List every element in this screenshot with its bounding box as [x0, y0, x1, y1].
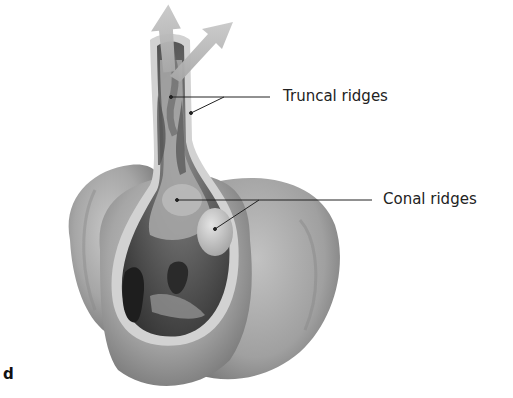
label-conal-ridges: Conal ridges — [383, 190, 477, 208]
panel-letter: d — [3, 365, 14, 383]
label-truncal-ridges: Truncal ridges — [283, 87, 388, 105]
truncal-leader-branch — [191, 97, 224, 113]
figure-canvas: Truncal ridges Conal ridges d — [0, 0, 513, 398]
